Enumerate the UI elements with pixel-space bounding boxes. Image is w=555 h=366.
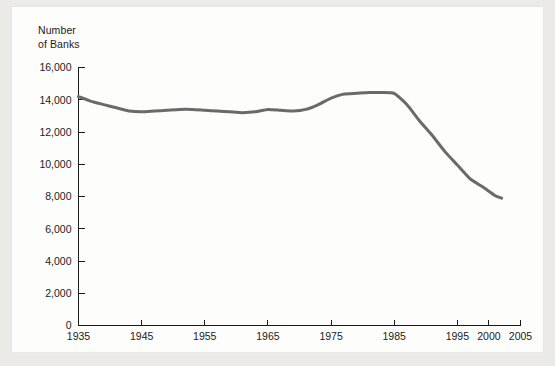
x-tick-label: 2005 [509, 330, 533, 342]
x-tick-label: 1995 [446, 330, 470, 342]
y-tick-label: 6,000 [45, 223, 71, 235]
x-tick-label: 1985 [383, 330, 407, 342]
x-axis-ticks: 193519451955196519751985199520002005 [67, 320, 533, 342]
x-tick-label: 1975 [319, 330, 343, 342]
data-series-line [79, 92, 502, 198]
x-tick-label: 1935 [67, 330, 91, 342]
y-tick-label: 8,000 [45, 190, 71, 202]
y-tick-label: 2,000 [45, 287, 71, 299]
x-tick-label: 1955 [193, 330, 217, 342]
chart-figure: Numberof Banks 02,0004,0006,0008,00010,0… [0, 0, 555, 366]
y-tick-label: 10,000 [39, 158, 71, 170]
y-tick-label: 4,000 [45, 255, 71, 267]
y-axis-ticks: 02,0004,0006,0008,00010,00012,00014,0001… [39, 61, 84, 331]
plot-area: 02,0004,0006,0008,00010,00012,00014,0001… [0, 0, 555, 366]
y-tick-label: 12,000 [39, 126, 71, 138]
y-tick-label: 16,000 [39, 61, 71, 73]
x-tick-label: 1965 [256, 330, 280, 342]
x-tick-label: 2000 [477, 330, 501, 342]
x-tick-label: 1945 [130, 330, 154, 342]
y-tick-label: 14,000 [39, 94, 71, 106]
